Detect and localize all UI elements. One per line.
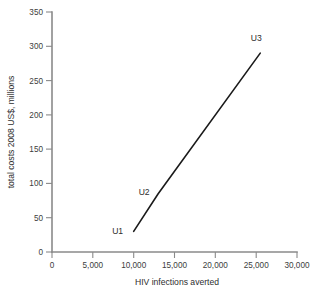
series-line-cost-effectiveness [134,53,261,231]
series-group [134,53,261,231]
y-tick-label: 100 [29,179,43,188]
y-axis-tick-labels: 350 300 250 200 150 100 50 0 [29,8,43,257]
x-axis-ticks [52,252,297,258]
data-point-label-u3: U3 [251,33,262,43]
x-tick-label: 15,000 [162,261,187,270]
x-axis-title: HIV infections averted [135,277,219,287]
x-tick-label: 20,000 [203,261,228,270]
line-chart: 350 300 250 200 150 100 50 0 [0,0,319,291]
x-tick-label: 10,000 [121,261,146,270]
chart-figure: 350 300 250 200 150 100 50 0 [0,0,319,291]
data-point-label-u1: U1 [112,226,123,236]
x-axis: 0 5,000 10,000 15,000 20,000 25,000 30,0… [50,252,310,270]
x-axis-tick-labels: 0 5,000 10,000 15,000 20,000 25,000 30,0… [50,261,310,270]
y-tick-label: 0 [38,248,43,257]
y-axis-ticks [46,12,52,252]
x-tick-label: 25,000 [244,261,269,270]
data-point-label-u2: U2 [139,187,150,197]
point-annotations: U1 U2 U3 [112,33,262,236]
y-tick-label: 350 [29,8,43,17]
y-tick-label: 200 [29,111,43,120]
x-tick-label: 0 [50,261,55,270]
y-tick-label: 250 [29,77,43,86]
x-tick-label: 30,000 [284,261,309,270]
y-axis-title: total costs 2008 US$, millions [6,76,16,189]
y-axis: 350 300 250 200 150 100 50 0 [29,8,52,257]
y-tick-label: 300 [29,42,43,51]
y-tick-label: 50 [34,214,44,223]
y-tick-label: 150 [29,145,43,154]
x-tick-label: 5,000 [83,261,104,270]
